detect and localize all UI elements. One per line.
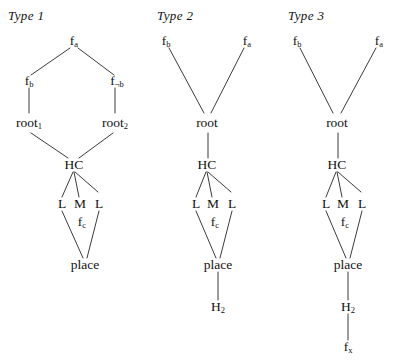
type-3-node-h2: H2 xyxy=(341,300,355,314)
tree-edges xyxy=(0,0,397,361)
edge-t2-hc-lleft xyxy=(196,172,206,197)
type-1-node-m: M xyxy=(74,197,86,211)
type-1-node-place: place xyxy=(71,258,99,272)
type-2-node-fb: fb xyxy=(162,34,171,48)
type-1-node-fb-left: fb xyxy=(25,74,34,88)
type-2-node-fc: fc xyxy=(211,215,219,229)
type-2-node-root: root xyxy=(196,116,218,130)
type-1-node-root2: root2 xyxy=(102,116,128,130)
edge-t2-lright-place xyxy=(220,211,232,258)
edge-t3-lright-place xyxy=(350,211,362,258)
type-1-node-fb-right: f¬b xyxy=(110,74,124,88)
type-3-node-l-left: L xyxy=(322,197,330,211)
edge-t2-fb-root xyxy=(169,48,204,113)
edge-t3-fa-root xyxy=(341,48,376,113)
type-2-node-m: M xyxy=(207,197,219,211)
type-2-node-l-left: L xyxy=(192,197,200,211)
type-1-node-hc: HC xyxy=(65,158,84,172)
type-2-node-fa: fa xyxy=(243,34,251,48)
type-3-node-place: place xyxy=(334,258,362,272)
edge-t1-root1-hc xyxy=(31,133,68,158)
edge-t1-hc-lright xyxy=(75,172,98,192)
edge-t2-fa-root xyxy=(211,48,244,113)
type-2-node-l-right: L xyxy=(228,197,236,211)
type-1-node-root1: root1 xyxy=(16,116,42,130)
edge-t1-hc-m xyxy=(74,172,79,197)
type-3-node-fb: fb xyxy=(293,34,302,48)
type-1-title: Type 1 xyxy=(8,8,44,24)
type-3-title: Type 3 xyxy=(288,8,324,24)
edge-t2-hc-lright xyxy=(208,172,231,192)
type-2-node-h2: H2 xyxy=(211,300,225,314)
edge-t1-lright-place xyxy=(87,211,99,258)
type-1-node-l-left: L xyxy=(58,197,66,211)
type-3-node-root: root xyxy=(326,116,348,130)
edge-t1-fa-fbright xyxy=(78,48,114,75)
type-3-node-fa: fa xyxy=(375,34,383,48)
edge-t3-hc-m xyxy=(337,172,342,197)
type-3-node-fx: fx xyxy=(344,340,353,354)
type-3-node-l-right: L xyxy=(358,197,366,211)
edge-t1-hc-lleft xyxy=(62,172,73,197)
type-1-node-fa: fa xyxy=(70,34,78,48)
type-1-node-l-right: L xyxy=(95,197,103,211)
type-3-node-fc: fc xyxy=(341,215,349,229)
type-3-node-m: M xyxy=(337,197,349,211)
edge-t3-hc-lleft xyxy=(326,172,336,197)
edge-t1-fa-fbleft xyxy=(31,48,70,75)
edge-t1-root2-hc xyxy=(79,133,113,158)
figure-canvas: Type 1 fa fb f¬b root1 root2 HC L M L fc… xyxy=(0,0,397,361)
edge-t3-hc-lright xyxy=(338,172,361,192)
edge-t3-fb-root xyxy=(300,48,333,113)
edge-t2-hc-m xyxy=(207,172,212,197)
type-2-node-place: place xyxy=(204,258,232,272)
type-2-node-hc: HC xyxy=(198,158,217,172)
type-2-title: Type 2 xyxy=(157,8,193,24)
type-3-node-hc: HC xyxy=(328,158,347,172)
type-1-node-fc: fc xyxy=(78,215,86,229)
